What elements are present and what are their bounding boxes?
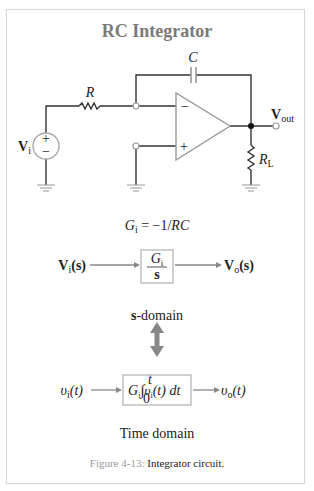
- resistor-label: R: [85, 85, 95, 100]
- capacitor-label: C: [188, 50, 198, 65]
- opamp-plus-sign: +: [180, 139, 188, 154]
- double-arrow-icon: [150, 322, 164, 357]
- source-label: Vi: [18, 139, 31, 156]
- time-domain-input: υi(t): [61, 383, 84, 400]
- figure-title: RC Integrator: [102, 21, 212, 41]
- load-resistor-label: RL: [258, 152, 274, 169]
- gain-equation: Gi = −1/RC: [125, 218, 190, 235]
- time-domain-label: Time domain: [120, 426, 195, 441]
- output-label: Vout: [271, 107, 294, 124]
- terminal-noninverting: [133, 143, 139, 149]
- s-domain-output: Vo(s): [224, 258, 254, 275]
- arrow-right-icon: [91, 387, 122, 393]
- arrow-right-icon: [193, 387, 220, 393]
- capacitor-c: [191, 67, 196, 83]
- figure-caption: Figure 4-13: Integrator circuit.: [90, 457, 225, 469]
- terminal-inverting: [133, 103, 139, 109]
- s-domain-label: s-domain: [131, 308, 183, 323]
- s-block-denominator: s: [154, 267, 160, 282]
- circuit-schematic: [46, 75, 273, 185]
- resistor-rl: [248, 145, 254, 170]
- figure-canvas: RC Integrator − + + −: [0, 0, 314, 491]
- time-block-expression: Gi∫υi(t) dt: [128, 382, 181, 400]
- s-domain-input: Vi(s): [58, 258, 86, 275]
- terminal-output: [273, 123, 279, 129]
- arrow-right-icon: [90, 262, 140, 268]
- ground-icon: [127, 185, 145, 191]
- source-minus-sign: −: [42, 144, 50, 159]
- opamp-minus-sign: −: [181, 99, 189, 114]
- ground-icon: [242, 185, 260, 191]
- resistor-r: [79, 103, 100, 109]
- time-domain-output: υo(t): [221, 383, 246, 400]
- integral-lower-limit: 0: [143, 391, 150, 406]
- arrow-right-icon: [175, 262, 222, 268]
- ground-icon: [37, 185, 55, 191]
- output-node-dot: [248, 123, 254, 129]
- wire-input: [46, 106, 79, 133]
